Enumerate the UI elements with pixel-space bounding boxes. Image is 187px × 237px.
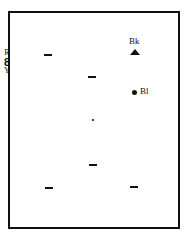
center-dot-mark xyxy=(92,119,94,121)
side-label-bottom: Y xyxy=(0,67,14,75)
dot-icon xyxy=(132,90,137,95)
dash-mark-upper-center xyxy=(88,76,96,78)
bl-label: Bl xyxy=(140,87,149,96)
triangle-icon xyxy=(130,49,140,55)
dash-mark-lower-center xyxy=(89,164,97,166)
side-label: R 8 Y xyxy=(0,49,14,75)
dash-mark-lower-right xyxy=(130,186,138,188)
bk-label: Bk xyxy=(129,37,140,46)
dash-mark-lower-left xyxy=(45,187,53,189)
diagram-frame xyxy=(8,11,180,229)
dash-mark-upper-left xyxy=(44,54,52,56)
